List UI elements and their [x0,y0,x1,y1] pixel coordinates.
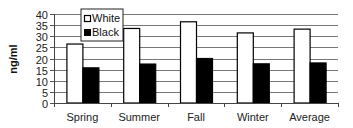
bar-black-average [310,63,326,103]
y-tick-label: 15 [36,65,48,77]
y-tick-label: 5 [42,87,48,99]
x-category-labels: SpringSummerFallWinterAverage [67,111,330,123]
legend-label-black: Black [92,26,119,38]
y-tick-label: 10 [36,76,48,88]
bar-black-winter [253,64,269,103]
bar-white-winter [237,33,253,103]
bar-black-fall [197,59,213,104]
legend-label-white: White [92,12,120,24]
y-axis-label: ng/ml [7,44,19,73]
bar-white-spring [67,44,83,103]
bar-white-summer [124,28,140,103]
y-tick-label: 0 [42,98,48,110]
y-tick-label: 40 [36,9,48,21]
y-tick-label: 30 [36,31,48,43]
x-category-label: Spring [67,111,99,123]
bar-white-fall [181,22,197,103]
legend-swatch-black [84,29,91,36]
x-category-label: Average [289,111,330,123]
legend: White Black [81,9,123,41]
y-tick-label: 20 [36,54,48,66]
bar-black-summer [140,64,156,103]
y-tick-labels: 0510152025303540 [36,9,48,110]
bar-black-spring [83,68,99,103]
bar-white-average [294,29,310,103]
y-tick-label: 35 [36,20,48,32]
x-category-label: Winter [237,111,269,123]
y-tick-label: 25 [36,42,48,54]
x-category-label: Fall [187,111,205,123]
legend-swatch-white [85,16,91,22]
bar-chart: 0510152025303540 SpringSummerFallWinterA… [0,0,353,128]
x-category-label: Summer [118,111,160,123]
